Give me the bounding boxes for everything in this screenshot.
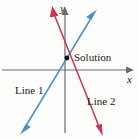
- graph-canvas: [0, 0, 139, 139]
- line-1-arrowhead-lower-icon: [20, 124, 31, 135]
- line-2-red: [54, 14, 100, 129]
- line-1-label: Line 1: [15, 85, 43, 96]
- line-2-label: Line 2: [87, 96, 115, 107]
- solution-label: Solution: [74, 52, 111, 63]
- linear-system-graph: y x Solution Line 1 Line 2: [0, 0, 139, 139]
- line-1-blue: [24, 15, 93, 129]
- y-axis-label: y: [60, 3, 65, 14]
- solution-point-marker: [65, 56, 70, 61]
- line-2-arrowhead-lower-icon: [96, 124, 103, 136]
- line-1-arrowhead-upper-icon: [86, 10, 97, 21]
- x-axis-label: x: [127, 74, 132, 85]
- line-2-arrowhead-upper-icon: [50, 6, 59, 18]
